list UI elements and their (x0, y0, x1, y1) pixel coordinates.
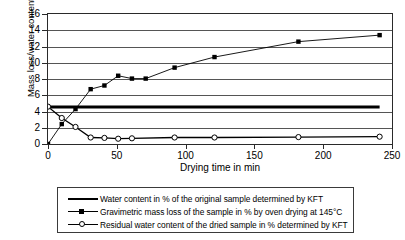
x-tick-label: 100 (166, 150, 206, 161)
series-residual-water-content (48, 104, 382, 141)
legend-item: Gravimetric mass loss of the sample in %… (66, 205, 353, 218)
series-canvas (48, 14, 392, 144)
y-tick-label: 14 (14, 25, 40, 35)
series-line (48, 35, 380, 144)
x-tick-mark (186, 145, 187, 149)
data-point-marker (116, 136, 121, 141)
data-point-marker (172, 65, 176, 69)
data-point-marker (73, 124, 78, 129)
data-point-marker (48, 104, 51, 109)
data-point-marker (130, 76, 134, 80)
data-point-marker (212, 55, 216, 59)
x-tick-label: 200 (303, 150, 343, 161)
legend-square-marker-icon (79, 209, 84, 214)
legend-label: Residual water content of the dried samp… (100, 219, 348, 231)
data-point-marker (73, 107, 77, 111)
data-point-marker (296, 39, 300, 43)
x-tick-mark (392, 145, 393, 149)
data-point-marker (116, 74, 120, 78)
data-point-marker (48, 142, 50, 144)
data-point-marker (212, 135, 217, 140)
y-tick-label: 4 (14, 107, 40, 117)
legend-line-swatch (68, 198, 98, 200)
y-tick-label: 2 (14, 123, 40, 133)
plot-area (47, 13, 393, 145)
x-tick-mark (48, 145, 49, 149)
y-tick-label: 12 (14, 42, 40, 52)
chart-figure: Mass loss/water content in % 02468101214… (0, 0, 405, 240)
data-point-marker (59, 115, 64, 120)
series-gravimetric-mass-loss (48, 33, 382, 144)
legend-key-filled-square-icon (66, 206, 100, 218)
x-tick-label: 150 (234, 150, 274, 161)
data-point-marker (60, 122, 64, 126)
x-tick-label: 250 (372, 150, 405, 161)
x-tick-label: 50 (97, 150, 137, 161)
data-point-marker (88, 135, 93, 140)
chart-legend: Water content in % of the original sampl… (57, 187, 354, 233)
legend-item: Water content in % of the original sampl… (66, 192, 353, 205)
data-point-marker (172, 135, 177, 140)
y-tick-label: 16 (14, 9, 40, 19)
y-tick-label: 6 (14, 90, 40, 100)
x-tick-mark (254, 145, 255, 149)
x-tick-mark (117, 145, 118, 149)
y-tick-label: 10 (14, 58, 40, 68)
data-point-marker (129, 136, 134, 141)
x-axis-title: Drying time in min (47, 162, 393, 174)
data-point-marker (377, 33, 381, 37)
legend-key-open-circle-icon (66, 219, 100, 231)
legend-circle-marker-icon (79, 221, 85, 227)
legend-item: Residual water content of the dried samp… (66, 218, 353, 231)
data-point-marker (377, 134, 382, 139)
data-point-marker (296, 134, 301, 139)
data-point-marker (102, 83, 106, 87)
series-line (48, 107, 380, 139)
y-tick-label: 8 (14, 74, 40, 84)
y-tick-label: 0 (14, 139, 40, 149)
x-tick-label: 0 (28, 150, 68, 161)
x-tick-mark (323, 145, 324, 149)
data-point-marker (88, 87, 92, 91)
data-point-marker (144, 76, 148, 80)
legend-key-none-icon (66, 193, 100, 205)
legend-label: Gravimetric mass loss of the sample in %… (100, 206, 342, 218)
data-point-marker (102, 135, 107, 140)
legend-label: Water content in % of the original sampl… (100, 193, 323, 205)
